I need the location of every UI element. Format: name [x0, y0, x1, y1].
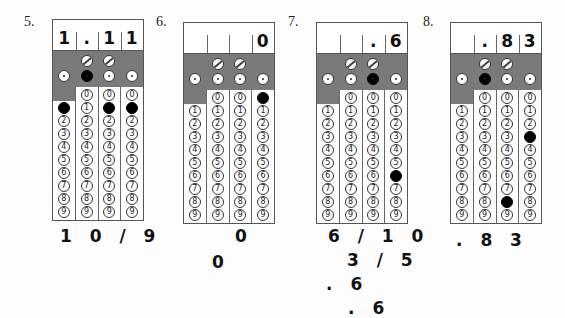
digit-bubble-5[interactable]: 5: [456, 157, 468, 169]
digit-bubble-7[interactable]: 7: [103, 180, 115, 192]
digit-bubble-1[interactable]: 1: [367, 105, 379, 117]
digit-bubble-4[interactable]: 4: [322, 144, 334, 156]
fraction-slash-bubble[interactable]: [81, 55, 93, 67]
digit-bubble-4[interactable]: 4: [103, 141, 115, 153]
digit-bubble-7[interactable]: 7: [189, 183, 201, 195]
digit-bubble-0[interactable]: 0: [81, 89, 93, 101]
digit-bubble-7[interactable]: 7: [81, 180, 93, 192]
digit-bubble-3[interactable]: 3: [390, 131, 402, 143]
digit-bubble-6[interactable]: 6: [456, 170, 468, 182]
digit-bubble-6[interactable]: 6: [501, 170, 513, 182]
digit-bubble-0[interactable]: 0: [212, 92, 224, 104]
digit-bubble-7[interactable]: 7: [345, 183, 357, 195]
digit-bubble-2[interactable]: 2: [126, 115, 138, 127]
fraction-slash-bubble[interactable]: [479, 58, 491, 70]
digit-bubble-1[interactable]: 1: [501, 105, 513, 117]
digit-bubble-0[interactable]: 0: [524, 92, 536, 104]
digit-bubble-6[interactable]: 6: [58, 167, 70, 179]
digit-bubble-9[interactable]: 9: [367, 209, 379, 221]
decimal-point-bubble[interactable]: [81, 70, 93, 82]
digit-bubble-8[interactable]: 8: [390, 196, 402, 208]
digit-bubble-5[interactable]: 5: [390, 157, 402, 169]
digit-bubble-8[interactable]: 8: [456, 196, 468, 208]
digit-bubble-5[interactable]: 5: [345, 157, 357, 169]
digit-bubble-1[interactable]: 1: [257, 105, 269, 117]
digit-bubble-0[interactable]: 0: [126, 89, 138, 101]
decimal-point-bubble[interactable]: [524, 73, 536, 85]
digit-bubble-0[interactable]: 0: [234, 92, 246, 104]
digit-bubble-4[interactable]: 4: [501, 144, 513, 156]
digit-bubble-6[interactable]: 6: [189, 170, 201, 182]
digit-bubble-7[interactable]: 7: [390, 183, 402, 195]
fraction-slash-bubble[interactable]: [103, 55, 115, 67]
digit-bubble-8[interactable]: 8: [126, 193, 138, 205]
digit-bubble-6[interactable]: 6: [126, 167, 138, 179]
digit-bubble-8[interactable]: 8: [501, 196, 513, 208]
digit-bubble-5[interactable]: 5: [58, 154, 70, 166]
digit-bubble-8[interactable]: 8: [322, 196, 334, 208]
digit-bubble-8[interactable]: 8: [212, 196, 224, 208]
digit-bubble-1[interactable]: 1: [322, 105, 334, 117]
digit-bubble-9[interactable]: 9: [479, 209, 491, 221]
digit-bubble-2[interactable]: 2: [501, 118, 513, 130]
digit-bubble-3[interactable]: 3: [367, 131, 379, 143]
digit-bubble-8[interactable]: 8: [58, 193, 70, 205]
digit-bubble-0[interactable]: 0: [103, 89, 115, 101]
digit-bubble-0[interactable]: 0: [367, 92, 379, 104]
decimal-point-bubble[interactable]: [456, 73, 468, 85]
digit-bubble-4[interactable]: 4: [345, 144, 357, 156]
digit-bubble-6[interactable]: 6: [524, 170, 536, 182]
digit-bubble-2[interactable]: 2: [81, 115, 93, 127]
digit-bubble-0[interactable]: 0: [390, 92, 402, 104]
digit-bubble-7[interactable]: 7: [257, 183, 269, 195]
digit-bubble-1[interactable]: 1: [212, 105, 224, 117]
digit-bubble-7[interactable]: 7: [58, 180, 70, 192]
digit-bubble-7[interactable]: 7: [126, 180, 138, 192]
fraction-slash-bubble[interactable]: [367, 58, 379, 70]
digit-bubble-2[interactable]: 2: [322, 118, 334, 130]
decimal-point-bubble[interactable]: [479, 73, 491, 85]
digit-bubble-8[interactable]: 8: [81, 193, 93, 205]
digit-bubble-2[interactable]: 2: [524, 118, 536, 130]
digit-bubble-5[interactable]: 5: [81, 154, 93, 166]
digit-bubble-5[interactable]: 5: [103, 154, 115, 166]
digit-bubble-1[interactable]: 1: [479, 105, 491, 117]
digit-bubble-7[interactable]: 7: [524, 183, 536, 195]
digit-bubble-3[interactable]: 3: [322, 131, 334, 143]
digit-bubble-9[interactable]: 9: [524, 209, 536, 221]
digit-bubble-4[interactable]: 4: [126, 141, 138, 153]
decimal-point-bubble[interactable]: [189, 73, 201, 85]
digit-bubble-8[interactable]: 8: [367, 196, 379, 208]
digit-bubble-7[interactable]: 7: [322, 183, 334, 195]
digit-bubble-4[interactable]: 4: [367, 144, 379, 156]
digit-bubble-2[interactable]: 2: [367, 118, 379, 130]
digit-bubble-1[interactable]: 1: [456, 105, 468, 117]
digit-bubble-0[interactable]: 0: [479, 92, 491, 104]
digit-bubble-9[interactable]: 9: [58, 206, 70, 218]
digit-bubble-2[interactable]: 2: [257, 118, 269, 130]
digit-bubble-9[interactable]: 9: [322, 209, 334, 221]
digit-bubble-2[interactable]: 2: [345, 118, 357, 130]
decimal-point-bubble[interactable]: [390, 73, 402, 85]
digit-bubble-9[interactable]: 9: [456, 209, 468, 221]
digit-bubble-5[interactable]: 5: [257, 157, 269, 169]
decimal-point-bubble[interactable]: [257, 73, 269, 85]
digit-bubble-3[interactable]: 3: [524, 131, 536, 143]
decimal-point-bubble[interactable]: [212, 73, 224, 85]
digit-bubble-5[interactable]: 5: [322, 157, 334, 169]
digit-bubble-9[interactable]: 9: [126, 206, 138, 218]
digit-bubble-2[interactable]: 2: [234, 118, 246, 130]
digit-bubble-1[interactable]: 1: [345, 105, 357, 117]
digit-bubble-3[interactable]: 3: [456, 131, 468, 143]
digit-bubble-6[interactable]: 6: [103, 167, 115, 179]
digit-bubble-3[interactable]: 3: [212, 131, 224, 143]
decimal-point-bubble[interactable]: [58, 70, 70, 82]
decimal-point-bubble[interactable]: [234, 73, 246, 85]
digit-bubble-3[interactable]: 3: [126, 128, 138, 140]
digit-bubble-9[interactable]: 9: [257, 209, 269, 221]
digit-bubble-7[interactable]: 7: [479, 183, 491, 195]
decimal-point-bubble[interactable]: [103, 70, 115, 82]
digit-bubble-4[interactable]: 4: [189, 144, 201, 156]
digit-bubble-5[interactable]: 5: [212, 157, 224, 169]
digit-bubble-2[interactable]: 2: [189, 118, 201, 130]
